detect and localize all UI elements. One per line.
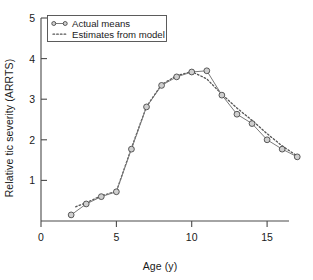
- data-point-marker: [98, 194, 104, 200]
- data-point-marker: [174, 74, 180, 80]
- x-axis-tick-labels: 0 5 10 15: [38, 231, 273, 243]
- data-point-marker: [113, 189, 119, 195]
- y-tick-label-2: 2: [29, 134, 35, 146]
- data-point-marker: [249, 121, 255, 127]
- data-point-marker: [129, 146, 135, 152]
- x-tick-label-15: 15: [261, 231, 273, 243]
- y-tick-label-5: 5: [29, 12, 35, 24]
- x-axis-ticks: [41, 221, 267, 227]
- data-point-marker: [189, 69, 195, 75]
- y-axis-ticks: [41, 18, 47, 180]
- chart-figure: Relative tic severity (ARRTS) Age (y) 5 …: [0, 0, 313, 280]
- y-axis-label: Relative tic severity (ARRTS): [3, 59, 15, 198]
- data-point-marker: [234, 111, 240, 117]
- legend-label-actual-means: Actual means: [72, 18, 130, 29]
- y-axis-tick-labels: 5 4 3 2 1: [29, 12, 35, 186]
- y-tick-label-4: 4: [29, 53, 35, 65]
- x-tick-label-0: 0: [38, 231, 44, 243]
- y-tick-label-3: 3: [29, 93, 35, 105]
- y-tick-label-1: 1: [29, 174, 35, 186]
- chart-canvas: Relative tic severity (ARRTS) Age (y) 5 …: [0, 0, 313, 280]
- x-axis-label: Age (y): [143, 260, 178, 272]
- data-point-marker: [264, 137, 270, 143]
- data-point-marker: [219, 92, 225, 98]
- legend-marker-circle-left: [52, 22, 56, 26]
- x-tick-label-5: 5: [113, 231, 119, 243]
- data-point-marker: [144, 104, 150, 110]
- legend-marker-circle-right: [63, 22, 67, 26]
- data-point-marker: [204, 68, 210, 74]
- data-point-marker: [68, 212, 74, 218]
- legend: Actual means Estimates from model: [48, 16, 167, 42]
- data-point-marker: [279, 146, 285, 152]
- series-line-actual-means: [71, 71, 297, 215]
- data-point-marker: [159, 83, 165, 89]
- series-markers-actual-means: [68, 68, 300, 218]
- x-tick-label-10: 10: [186, 231, 198, 243]
- data-point-marker: [294, 154, 300, 160]
- data-point-marker: [83, 201, 89, 207]
- legend-label-estimates-from-model: Estimates from model: [72, 29, 165, 40]
